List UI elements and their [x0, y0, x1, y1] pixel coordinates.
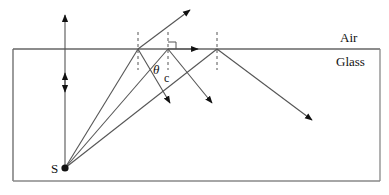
incident-ray-1: [65, 49, 138, 168]
outgoing-rays: [138, 10, 312, 120]
incident-rays: [65, 49, 217, 168]
air-label: Air: [340, 30, 358, 45]
refraction-diagram: S θ c Air Glass: [0, 0, 389, 195]
right-angle-marker: [168, 42, 176, 49]
glass-block: [13, 49, 380, 181]
glass-label: Glass: [336, 54, 365, 69]
reflected-ray-2: [168, 49, 212, 103]
theta-label: θ: [153, 62, 160, 77]
source-label: S: [51, 161, 58, 176]
incident-ray-3: [65, 49, 217, 168]
refracted-ray-1: [138, 10, 190, 49]
critical-subscript-label: c: [164, 71, 169, 85]
source-point: [61, 164, 68, 171]
total-internal-reflection-ray: [217, 49, 312, 120]
normals: [138, 32, 217, 70]
